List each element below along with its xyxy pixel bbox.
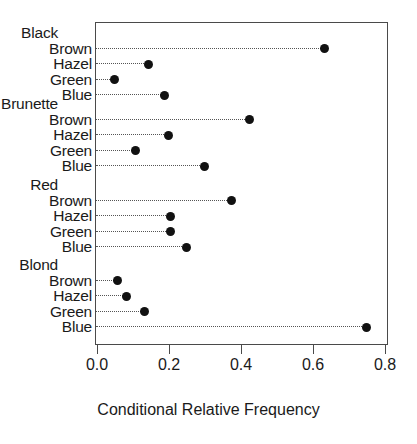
category-label: Green [50, 72, 96, 88]
data-point [320, 44, 329, 53]
data-point [144, 60, 153, 69]
x-axis-tick-label: 0.0 [86, 357, 108, 373]
data-point [245, 115, 254, 124]
data-point [110, 75, 119, 84]
leader-line [96, 63, 146, 64]
data-point [140, 307, 149, 316]
x-axis-tick [97, 345, 98, 354]
category-label: Green [50, 143, 96, 159]
category-label: Brown [49, 41, 96, 57]
category-label: Blue [62, 240, 96, 256]
data-point [166, 212, 175, 221]
x-axis-tick [169, 345, 170, 354]
category-label: Hazel [53, 127, 96, 143]
leader-line [96, 311, 143, 312]
leader-line [96, 200, 229, 201]
x-axis-tick [241, 345, 242, 354]
group-header: Blond [19, 257, 96, 273]
category-label: Brown [49, 273, 96, 289]
x-axis-tick-label: 0.2 [158, 357, 180, 373]
leader-line [96, 134, 166, 135]
data-point [182, 243, 191, 252]
category-label: Green [50, 224, 96, 240]
data-point [200, 162, 209, 171]
category-label: Blue [62, 159, 96, 175]
data-point [122, 292, 131, 301]
group-header: Red [30, 177, 96, 193]
category-label: Green [50, 304, 96, 320]
x-axis-tick [313, 345, 314, 354]
data-point [160, 91, 169, 100]
category-label: Blue [62, 320, 96, 336]
data-point [164, 131, 173, 140]
category-label: Brown [49, 112, 96, 128]
leader-line [96, 326, 364, 327]
data-point [113, 276, 122, 285]
x-axis-title: Conditional Relative Frequency [0, 402, 417, 418]
leader-line [96, 94, 163, 95]
data-point [362, 323, 371, 332]
leader-line [96, 295, 125, 296]
data-point [131, 146, 140, 155]
x-axis-tick [385, 345, 386, 354]
dot-plot-figure: BlackBrownHazelGreenBlueBrunetteBrownHaz… [0, 0, 417, 444]
leader-line [96, 215, 168, 216]
leader-line [96, 231, 168, 232]
data-point [227, 196, 236, 205]
leader-line [96, 246, 184, 247]
leader-line [96, 165, 202, 166]
category-label: Brown [49, 193, 96, 209]
leader-line [96, 48, 323, 49]
category-label: Hazel [53, 56, 96, 72]
category-label: Hazel [53, 288, 96, 304]
plot-area: BlackBrownHazelGreenBlueBrunetteBrownHaz… [95, 22, 388, 345]
data-point [166, 227, 175, 236]
group-header: Brunette [1, 96, 96, 112]
category-label: Hazel [53, 208, 96, 224]
x-axis-tick-label: 0.8 [374, 357, 396, 373]
x-axis-tick-label: 0.4 [230, 357, 252, 373]
x-axis-tick-label: 0.6 [302, 357, 324, 373]
leader-line [96, 119, 247, 120]
leader-line [96, 150, 134, 151]
group-header: Black [21, 25, 96, 41]
